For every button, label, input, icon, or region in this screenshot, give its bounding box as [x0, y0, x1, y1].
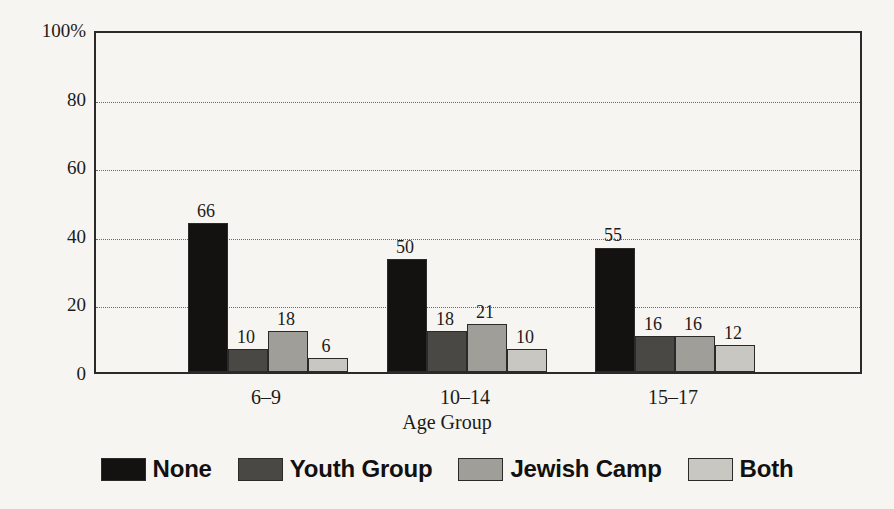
x-axis-title: Age Group — [0, 411, 894, 434]
legend-item-3: Both — [688, 455, 794, 483]
bar — [635, 336, 675, 372]
bar — [188, 223, 228, 372]
legend-label: Jewish Camp — [510, 455, 661, 483]
chart-figure: 020406080100% 6–910–1415–17 Age Group No… — [0, 0, 894, 509]
bar — [675, 336, 715, 372]
y-axis-tick-80: 80 — [67, 89, 86, 111]
legend-item-2: Jewish Camp — [458, 455, 661, 483]
bar — [595, 248, 635, 373]
bar — [228, 349, 268, 372]
bar-value-label: 21 — [476, 302, 494, 323]
bar — [507, 349, 547, 372]
legend-swatch-0 — [101, 458, 146, 481]
x-axis-label-0: 6–9 — [251, 386, 281, 409]
gridline-60 — [96, 170, 860, 171]
bar — [467, 324, 507, 372]
bar-value-label: 12 — [724, 323, 742, 344]
y-axis-tick-20: 20 — [67, 294, 86, 316]
x-axis-label-2: 15–17 — [648, 386, 698, 409]
bar — [268, 331, 308, 372]
legend-swatch-2 — [458, 458, 503, 481]
bar-value-label: 55 — [604, 225, 622, 246]
y-axis-tick-60: 60 — [67, 157, 86, 179]
bar-value-label: 6 — [322, 336, 331, 357]
legend-item-1: Youth Group — [238, 455, 433, 483]
bar-value-label: 18 — [277, 309, 295, 330]
bar-value-label: 18 — [436, 309, 454, 330]
bar-value-label: 16 — [684, 314, 702, 335]
y-axis-tick-0: 0 — [77, 363, 87, 385]
legend-swatch-3 — [688, 458, 733, 481]
legend-label: Both — [740, 455, 794, 483]
bar-value-label: 10 — [237, 327, 255, 348]
bar-value-label: 66 — [197, 201, 215, 222]
legend-label: None — [153, 455, 212, 483]
bar — [427, 331, 467, 372]
bar — [308, 358, 348, 372]
bar-value-label: 10 — [516, 327, 534, 348]
bar-value-label: 16 — [644, 314, 662, 335]
legend-label: Youth Group — [290, 455, 433, 483]
chart-legend: NoneYouth GroupJewish CampBoth — [0, 455, 894, 483]
bar — [715, 345, 755, 372]
legend-swatch-1 — [238, 458, 283, 481]
x-axis-label-1: 10–14 — [440, 386, 490, 409]
bar — [387, 259, 427, 372]
gridline-80 — [96, 102, 860, 103]
y-axis-tick-100: 100% — [42, 20, 86, 42]
y-axis-tick-40: 40 — [67, 226, 86, 248]
legend-item-0: None — [101, 455, 212, 483]
bar-value-label: 50 — [396, 237, 414, 258]
